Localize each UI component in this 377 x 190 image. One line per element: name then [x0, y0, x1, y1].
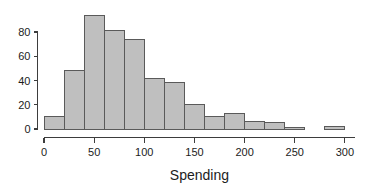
- histogram-bar: [44, 117, 64, 129]
- x-axis-tick-label: 300: [336, 146, 354, 158]
- histogram-bar: [104, 31, 124, 129]
- histogram-bar: [225, 113, 245, 129]
- histogram-bar: [124, 39, 144, 129]
- histogram-bar: [164, 83, 184, 129]
- y-axis-tick-label: 60: [18, 50, 30, 62]
- y-axis-tick-label: 40: [18, 75, 30, 87]
- histogram-bar: [285, 128, 305, 129]
- histogram-figure: 020406080050100150200250300Spending: [0, 0, 377, 190]
- y-axis-tick-label: 80: [18, 26, 30, 38]
- histogram-bar: [84, 15, 104, 129]
- histogram-bar: [325, 127, 345, 129]
- histogram-bar: [184, 105, 204, 129]
- x-axis-tick-label: 200: [235, 146, 253, 158]
- x-axis-title: Spending: [170, 167, 229, 183]
- histogram-bar: [64, 71, 84, 129]
- x-axis-tick-label: 50: [88, 146, 100, 158]
- x-axis-tick-label: 0: [41, 146, 47, 158]
- histogram-plot: 020406080050100150200250300Spending: [0, 0, 377, 190]
- y-axis-tick-label: 0: [24, 123, 30, 135]
- x-axis-tick-label: 150: [185, 146, 203, 158]
- x-axis-tick-label: 250: [286, 146, 304, 158]
- histogram-bar: [144, 78, 164, 129]
- histogram-bar: [265, 123, 285, 129]
- y-axis-tick-label: 20: [18, 99, 30, 111]
- x-axis-tick-label: 100: [135, 146, 153, 158]
- histogram-bar: [245, 122, 265, 129]
- histogram-bar: [204, 117, 224, 129]
